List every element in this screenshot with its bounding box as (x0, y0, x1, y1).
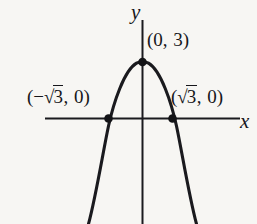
vertex-separator: , (163, 29, 174, 50)
parabola-graph-figure: y x (0, 3) (−√3, 0) (√3, 0) (0, 0, 257, 224)
y-axis-label: y (131, 2, 140, 23)
x-axis-label: x (240, 111, 249, 132)
root-right-point-marker (168, 114, 177, 123)
graph-canvas (0, 0, 257, 224)
root-right-radicand: 3 (186, 85, 197, 107)
root-left-minus-sign: − (33, 86, 44, 107)
vertex-coordinate-label: (0, 3) (147, 30, 189, 49)
root-left-close-paren: ) (83, 86, 89, 107)
vertex-close-paren: ) (183, 29, 189, 50)
root-left-coordinate-label: (−√3, 0) (27, 87, 90, 106)
root-left-separator: , (63, 86, 74, 107)
vertex-x-value: 0 (153, 29, 163, 50)
root-left-radicand: 3 (53, 85, 64, 107)
root-left-point-marker (104, 114, 113, 123)
vertex-point-marker (138, 58, 147, 67)
root-right-y-value: 0 (207, 86, 217, 107)
vertex-y-value: 3 (173, 29, 183, 50)
root-right-coordinate-label: (√3, 0) (171, 87, 223, 106)
root-right-close-paren: ) (217, 86, 223, 107)
root-right-separator: , (197, 86, 208, 107)
